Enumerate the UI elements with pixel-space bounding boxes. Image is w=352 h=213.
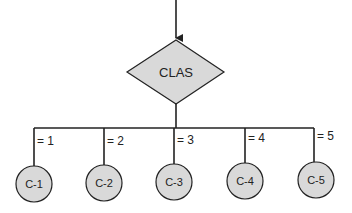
case-node-label: C-5 [307,174,325,186]
branch-4: = 4 C-4 [227,128,265,199]
branch-condition: = 1 [37,134,54,148]
branch-3: = 3 C-3 [156,128,194,200]
branch-condition: = 5 [317,129,334,143]
branch-condition: = 4 [248,131,265,145]
case-node-label: C-2 [95,177,113,189]
case-node-label: C-3 [165,176,183,188]
case-node-label: C-4 [236,175,254,187]
flowchart: CLAS = 1 C-1 = 2 C-2 = 3 C-3 = 4 C-4 = 5… [0,0,352,213]
branch-2: = 2 C-2 [86,128,124,201]
branch-1: = 1 C-1 [16,128,54,202]
decision-node: CLAS [127,40,224,104]
branch-condition: = 3 [177,133,194,147]
decision-label: CLAS [159,65,193,80]
case-node-label: C-1 [25,178,43,190]
branch-5: = 5 C-5 [298,128,334,198]
branch-condition: = 2 [107,134,124,148]
